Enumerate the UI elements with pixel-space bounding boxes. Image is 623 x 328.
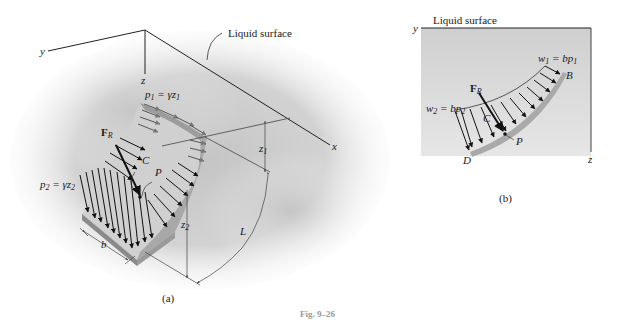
P-label-b: P	[515, 135, 523, 147]
liquid-surface-label-a: Liquid surface	[228, 27, 292, 39]
panel-a: y z x Liquid surface	[10, 27, 390, 305]
C-label-a: C	[142, 154, 150, 166]
w2-label: w2 = bp2	[426, 102, 465, 116]
y-axis-label: y	[39, 45, 45, 57]
panel-b: y z Liquid surface w1 = bp1	[412, 14, 593, 205]
B-label: B	[566, 69, 573, 81]
p2-label: p2 = γz2	[39, 178, 75, 192]
L-label: L	[239, 225, 246, 237]
figure-canvas: y z x Liquid surface	[0, 0, 623, 328]
w1-label: w1 = bp1	[538, 52, 577, 66]
D-label: D	[462, 154, 471, 166]
P-label-a: P	[154, 166, 162, 178]
x-axis-label: x	[331, 140, 337, 152]
point-p-a	[138, 195, 142, 199]
b-label: b	[101, 238, 107, 250]
z-axis-label: z	[140, 74, 146, 86]
panel-a-caption: (a)	[162, 292, 175, 305]
p1-label: p1 = γz1	[144, 88, 180, 102]
y-axis-label-b: y	[412, 22, 418, 34]
figure-caption: Fig. 9–26	[300, 309, 335, 319]
z-axis-label-b: z	[587, 153, 593, 165]
liquid-surface-label-b: Liquid surface	[433, 14, 497, 26]
C-label-b: C	[483, 112, 491, 124]
panel-b-caption: (b)	[499, 192, 512, 205]
